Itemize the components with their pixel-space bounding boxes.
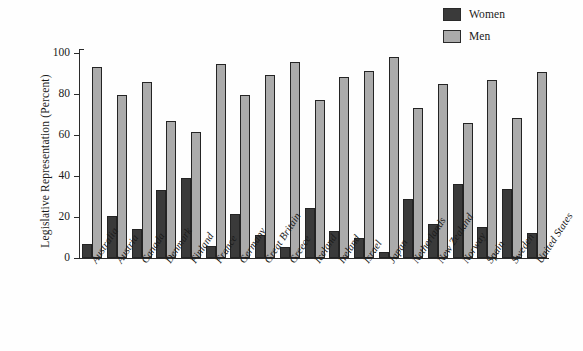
bar-men <box>512 118 522 258</box>
plot-area: 020406080100 <box>79 53 549 258</box>
bar-men <box>463 123 473 258</box>
bar-men <box>389 57 399 258</box>
y-axis-tick: 60 <box>74 135 79 136</box>
y-axis-tick: 40 <box>74 176 79 177</box>
bar-men <box>166 121 176 258</box>
y-axis-tick-label: 40 <box>59 169 71 181</box>
bar-women <box>305 208 315 258</box>
bar-group <box>376 53 401 258</box>
bar-men <box>413 108 423 258</box>
bar-men <box>92 67 102 258</box>
y-axis-tick-label: 80 <box>59 87 71 99</box>
bar-men <box>339 77 349 258</box>
bar-men <box>216 64 226 258</box>
bar-group <box>228 53 253 258</box>
bar-group <box>475 53 500 258</box>
bar-group <box>524 53 549 258</box>
bar-group <box>80 53 105 258</box>
bar-group <box>327 53 352 258</box>
legend-item-women: Women <box>443 8 553 21</box>
y-axis-tick: 100 <box>74 53 79 54</box>
bar-men <box>315 100 325 258</box>
y-axis-tick-label: 20 <box>59 210 71 222</box>
y-axis-tick: 20 <box>74 217 79 218</box>
y-axis-tick-label: 60 <box>59 128 71 140</box>
legend-swatch-men <box>443 30 461 43</box>
y-axis-tick-label: 100 <box>53 46 70 58</box>
bar-men <box>364 71 374 258</box>
bar-group <box>352 53 377 258</box>
bar-group <box>500 53 525 258</box>
bar-groups <box>80 53 549 258</box>
bar-group <box>302 53 327 258</box>
bar-group <box>203 53 228 258</box>
chart-legend: Women Men <box>443 8 553 52</box>
x-axis-tick-labels: AustraliaAustriaCanadaDenmarkFinlandFran… <box>80 259 549 349</box>
y-axis-tick: 0 <box>74 258 79 259</box>
legend-label-men: Men <box>469 31 490 43</box>
legend-swatch-women <box>443 8 461 21</box>
y-axis-title: Legislative Representation (Percent) <box>39 46 51 276</box>
bar-men <box>142 82 152 258</box>
bar-men <box>240 95 250 258</box>
bar-men <box>537 72 547 258</box>
bar-group <box>129 53 154 258</box>
bar-men <box>487 80 497 258</box>
y-axis-tick: 80 <box>74 94 79 95</box>
legend-label-women: Women <box>469 9 505 21</box>
bar-chart-figure: Women Men Legislative Representation (Pe… <box>0 0 583 351</box>
y-axis-tick-label: 0 <box>64 251 70 263</box>
bar-group <box>401 53 426 258</box>
bar-group <box>154 53 179 258</box>
y-axis-top-cap <box>79 49 84 50</box>
legend-item-men: Men <box>443 30 553 43</box>
